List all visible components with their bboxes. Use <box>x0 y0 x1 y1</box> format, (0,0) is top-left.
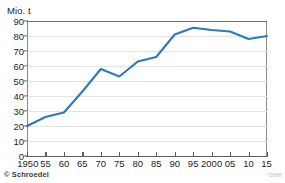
y-axis-tick-mark <box>24 20 28 21</box>
y-axis-tick-mark <box>24 110 28 111</box>
x-axis-tick-label: 10 <box>243 158 254 169</box>
y-axis-tick-label: 90 <box>2 16 24 27</box>
x-axis-tick-label: 85 <box>151 158 162 169</box>
x-axis-tick-label: 15 <box>261 158 272 169</box>
y-axis-tick-mark <box>24 50 28 51</box>
x-axis-tick-label: 2000 <box>201 158 222 169</box>
x-axis-tick-label: 80 <box>132 158 143 169</box>
x-axis-tick-label: 60 <box>59 158 70 169</box>
y-axis-tick-label: 60 <box>2 61 24 72</box>
y-axis-tick-mark <box>24 65 28 66</box>
y-axis-tick-mark <box>24 140 28 141</box>
x-axis-tick-label: 55 <box>40 158 51 169</box>
y-axis-tick-label: 50 <box>2 76 24 87</box>
y-axis-tick-label: 30 <box>2 106 24 117</box>
data-series-line <box>27 21 267 156</box>
copyright-credit: © Schroedel <box>4 170 49 179</box>
y-axis-tick-label: 20 <box>2 121 24 132</box>
y-axis-tick-label: 70 <box>2 46 24 57</box>
y-axis-tick-mark <box>24 35 28 36</box>
y-axis-tick-mark <box>24 80 28 81</box>
x-axis-tick-mark <box>267 152 268 157</box>
y-axis-tick-label: 80 <box>2 31 24 42</box>
y-axis-tick-label: 10 <box>2 136 24 147</box>
x-axis-tick-label: 95 <box>188 158 199 169</box>
chart-figure: Mio. t 0102030405060708090 1950556065707… <box>0 0 285 183</box>
x-axis-tick-label: 70 <box>96 158 107 169</box>
y-axis-tick-mark <box>24 125 28 126</box>
x-axis-tick-label: 65 <box>77 158 88 169</box>
y-axis-tick-mark <box>24 95 28 96</box>
x-axis-tick-label: 1950 <box>17 158 38 169</box>
x-axis-tick-label: 90 <box>169 158 180 169</box>
x-axis-tick-label: 05 <box>225 158 236 169</box>
y-axis-tick-mark <box>24 155 28 156</box>
reference-code: 7266H <box>267 173 282 178</box>
y-axis-tick-label: 40 <box>2 91 24 102</box>
y-axis-labels: 0102030405060708090 <box>0 0 24 183</box>
series-polyline <box>27 28 267 126</box>
x-axis-tick-label: 75 <box>114 158 125 169</box>
